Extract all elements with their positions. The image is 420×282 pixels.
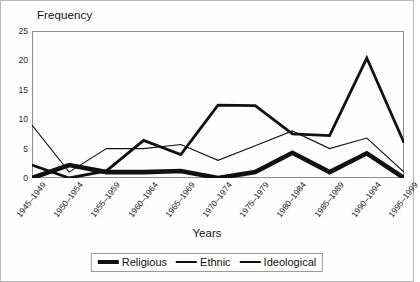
x-axis-tick: 1955–1959	[89, 180, 123, 219]
x-axis-tick: 1960–1964	[126, 180, 160, 219]
chart-legend: ReligiousEthnicIdeological	[91, 253, 323, 272]
y-axis-tick-labels: 0510152025	[1, 31, 31, 178]
legend-item-ideological[interactable]: Ideological	[240, 256, 317, 268]
y-axis-title: Frequency	[37, 9, 92, 21]
x-axis-tick: 1980–1984	[275, 180, 309, 219]
legend-label: Ideological	[264, 256, 317, 268]
legend-label: Ethnic	[200, 256, 231, 268]
x-axis-tick: 1970–1974	[200, 180, 234, 219]
y-axis-tick: 15	[18, 85, 28, 95]
x-axis-tick: 1950–1954	[51, 180, 85, 219]
legend-swatch-icon	[176, 261, 197, 264]
legend-item-religious[interactable]: Religious	[98, 256, 167, 268]
y-axis-tick: 20	[18, 55, 28, 65]
series-lines	[32, 31, 404, 178]
y-axis-tick: 10	[18, 114, 28, 124]
legend-label: Religious	[122, 256, 167, 268]
legend-swatch-icon	[98, 260, 119, 265]
x-axis-tick: 1995–1999	[386, 180, 420, 219]
legend-swatch-icon	[240, 261, 261, 262]
x-axis-tick: 1975–1979	[237, 180, 271, 219]
y-axis-tick: 5	[23, 144, 28, 154]
y-axis-tick: 25	[18, 26, 28, 36]
legend-item-ethnic[interactable]: Ethnic	[176, 256, 231, 268]
x-axis-tick: 1990–1994	[349, 180, 383, 219]
x-axis-title: Years	[1, 227, 413, 239]
x-axis-tick: 1945–1949	[14, 180, 48, 219]
x-axis-tick: 1965–1969	[163, 180, 197, 219]
x-axis-tick: 1985–1989	[312, 180, 346, 219]
plot-area	[32, 31, 404, 178]
y-axis-tick: 0	[23, 173, 28, 183]
